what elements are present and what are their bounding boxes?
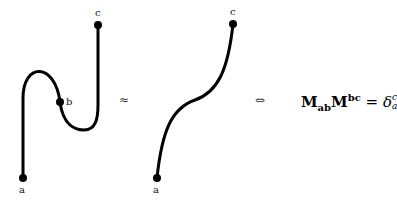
kronecker-delta: δ (383, 93, 392, 111)
subscript-ab: ab (318, 102, 331, 113)
iff-symbol: ⇔ (255, 93, 265, 107)
matrix-M-bc: M (331, 93, 348, 111)
right-label-c: c (230, 7, 236, 17)
right-label-a: a (153, 185, 159, 195)
right-curve (157, 24, 233, 178)
right-node-a (153, 174, 161, 182)
left-node-b (56, 98, 64, 106)
equals-sign: = (366, 93, 379, 111)
right-node-c (229, 20, 237, 28)
approx-symbol: ≈ (119, 93, 129, 107)
left-label-b: b (66, 97, 72, 107)
left-label-a: a (19, 185, 25, 195)
left-node-a (19, 174, 27, 182)
equation: MabMbc = δca (301, 92, 397, 113)
matrix-M-ab: M (301, 93, 318, 111)
left-node-c (94, 21, 102, 29)
superscript-bc: bc (348, 92, 361, 103)
delta-subscript-a: a (392, 102, 397, 111)
left-label-c: c (95, 8, 101, 18)
